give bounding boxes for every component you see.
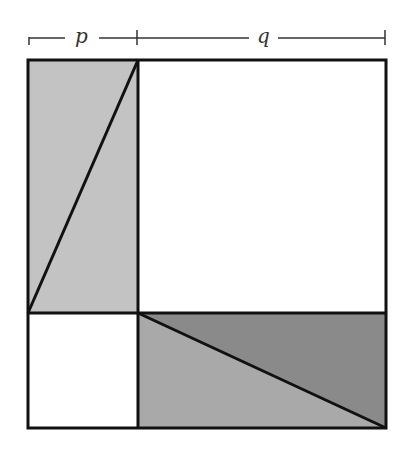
label-p: p [75,24,88,48]
label-q: q [257,24,270,48]
pq-square-diagram: p q [0,0,411,455]
